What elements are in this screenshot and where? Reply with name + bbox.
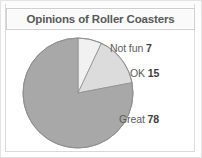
pie-label-great-name: Great [119, 113, 145, 125]
pie-slice-group [23, 38, 133, 148]
pie-svg [0, 0, 202, 158]
pie-label-not-fun-value: 7 [146, 42, 152, 54]
pie-label-ok-name: OK [130, 67, 145, 79]
pie-label-ok-value: 15 [148, 67, 159, 79]
pie-label-not-fun: Not fun 7 [110, 42, 152, 54]
pie-label-great: Great 78 [119, 113, 159, 125]
pie-label-ok: OK 15 [130, 67, 159, 79]
pie-label-not-fun-name: Not fun [110, 42, 143, 54]
pie-chart-figure: Opinions of Roller Coasters Not fun 7 OK… [0, 0, 202, 158]
pie-graphic [0, 0, 202, 158]
pie-label-great-value: 78 [148, 113, 159, 125]
